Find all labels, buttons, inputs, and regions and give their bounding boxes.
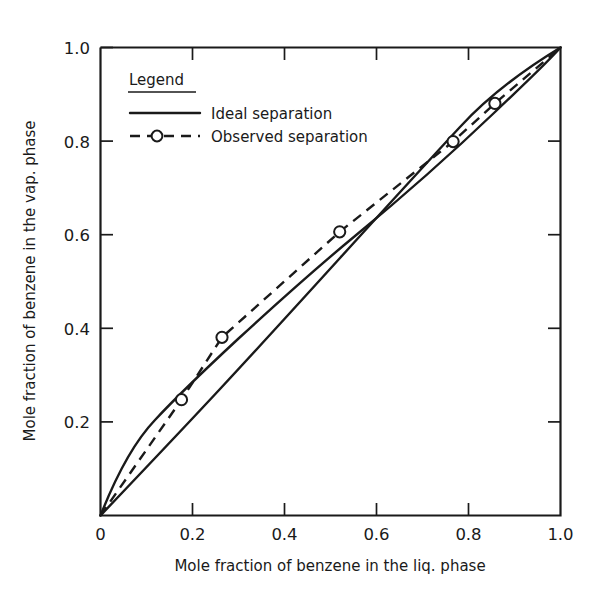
legend-entry-ideal: Ideal separation: [130, 105, 332, 123]
y-tick-label-0p6: 0.6: [64, 226, 90, 245]
data-point-marker: [334, 226, 345, 237]
x-tick-label-0p6: 0.6: [363, 525, 389, 544]
figure-container: 1.0 0.8 0.6 0.4 0.2 0 0.2 0.4 0.6 0.8 1.…: [0, 0, 607, 603]
x-tick-label-0p2: 0.2: [179, 525, 205, 544]
x-axis-title: Mole fraction of benzene in the liq. pha…: [174, 557, 485, 575]
x-axis-ticks: [193, 503, 469, 516]
x-tick-label-1p0: 1.0: [547, 525, 573, 544]
y-tick-label-0p2: 0.2: [64, 413, 90, 432]
equilibrium-chart: 1.0 0.8 0.6 0.4 0.2 0 0.2 0.4 0.6 0.8 1.…: [0, 0, 607, 603]
x-axis-ticks-top: [193, 48, 469, 61]
legend-label-ideal: Ideal separation: [211, 105, 332, 123]
y-axis-tick-labels: 1.0 0.8 0.6 0.4 0.2: [64, 39, 90, 432]
x-tick-label-0p8: 0.8: [455, 525, 481, 544]
x-tick-label-0: 0: [95, 525, 106, 544]
x-tick-label-0p4: 0.4: [271, 525, 297, 544]
legend-swatch-observed-marker: [152, 131, 163, 142]
y-tick-label-0p8: 0.8: [64, 133, 90, 152]
y-axis-ticks-right: [548, 141, 561, 422]
y-axis-ticks: [101, 48, 114, 422]
legend-title: Legend: [129, 71, 184, 89]
x-axis-tick-labels: 0 0.2 0.4 0.6 0.8 1.0: [95, 525, 573, 544]
legend-entry-observed: Observed separation: [130, 128, 368, 146]
data-point-marker: [216, 332, 227, 343]
data-point-marker: [489, 98, 500, 109]
legend: Legend Ideal separation Observed separat…: [128, 71, 368, 146]
data-point-marker: [448, 136, 459, 147]
legend-label-observed: Observed separation: [211, 128, 368, 146]
data-point-marker: [176, 394, 187, 405]
y-tick-label-0p4: 0.4: [64, 320, 90, 339]
y-axis-title: Mole fraction of benzene in the vap. pha…: [21, 121, 39, 442]
y-tick-label-1p0: 1.0: [64, 39, 90, 58]
